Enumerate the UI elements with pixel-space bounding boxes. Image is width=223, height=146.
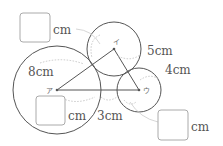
label-5cm: 5cm <box>147 44 173 58</box>
dotted-arc-3cm <box>101 97 117 100</box>
dotted-arc-b-left <box>91 35 100 58</box>
answer-box-bottom-right[interactable] <box>158 110 188 140</box>
answer-box-top-left[interactable] <box>20 13 50 42</box>
vertex-label-a: ア <box>46 87 53 95</box>
triangle <box>57 49 139 90</box>
center-dot-a <box>56 89 59 92</box>
center-dot-b <box>113 48 116 51</box>
vertex-label-c: ウ <box>143 87 150 95</box>
circles-triangle-diagram: ア イ ウ 8cm 5cm 4cm 3cm cm cm cm <box>0 0 223 146</box>
answer-unit-top-left: cm <box>53 23 72 37</box>
dotted-arc-8cm <box>40 60 84 64</box>
center-dot-c <box>138 89 141 92</box>
label-8cm: 8cm <box>28 65 54 79</box>
leader-bottom-right <box>130 102 158 122</box>
dotted-arc-5cm <box>118 55 140 59</box>
label-3cm: 3cm <box>97 109 123 123</box>
answer-box-bottom-left[interactable] <box>36 96 65 125</box>
answer-unit-bottom-left: cm <box>68 109 87 123</box>
label-4cm: 4cm <box>165 63 191 77</box>
answer-unit-bottom-right: cm <box>191 120 210 134</box>
vertex-label-b: イ <box>113 38 120 46</box>
dotted-arc-4cm <box>140 76 158 80</box>
